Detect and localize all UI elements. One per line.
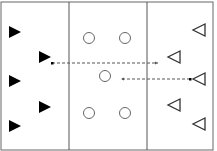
- filled-triangle-icon: [39, 51, 51, 63]
- filled-triangle-icon: [9, 120, 21, 132]
- circle-marker-icon: [84, 33, 95, 44]
- circle-marker-icon: [120, 33, 131, 44]
- arrow-origin-dot: [51, 62, 54, 65]
- outline-triangle-icon: [168, 99, 180, 111]
- outline-triangle-icon: [193, 118, 205, 130]
- circle-marker-icon: [84, 108, 95, 119]
- circle-marker-icon: [100, 71, 111, 82]
- filled-triangle-icon: [39, 101, 51, 113]
- arrow-origin-dot: [189, 78, 192, 81]
- outline-triangle-icon: [193, 24, 205, 36]
- filled-triangle-icon: [9, 26, 21, 38]
- arrow-head-icon: [121, 78, 124, 81]
- circle-marker-icon: [120, 108, 131, 119]
- outline-triangle-icon: [193, 73, 205, 85]
- filled-triangle-icon: [9, 75, 21, 87]
- arrow-head-icon: [155, 62, 158, 65]
- outer-border: [1, 2, 213, 150]
- formation-diagram: [0, 0, 217, 151]
- outline-triangle-icon: [168, 51, 180, 63]
